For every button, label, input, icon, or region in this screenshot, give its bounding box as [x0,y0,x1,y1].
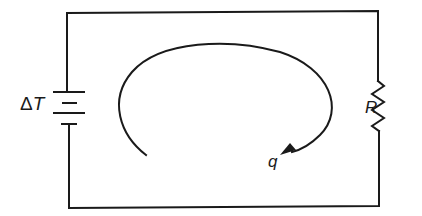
delta-symbol: Δ [20,93,33,114]
temperature-symbol: T [33,93,45,114]
circuit-diagram: ΔT R q [0,0,422,216]
flow-arc [119,44,332,155]
wire-top-left [67,11,378,92]
arrowhead-icon [280,143,296,155]
delta-t-label: ΔT [20,94,44,113]
wire-bottom [69,124,379,208]
circuit-drawing [0,0,422,216]
resistor-label: R [365,99,377,116]
flow-label: q [268,153,277,170]
